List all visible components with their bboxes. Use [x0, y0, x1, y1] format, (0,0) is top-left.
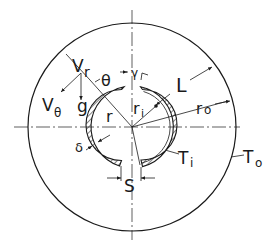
center-axes — [14, 10, 240, 240]
label-r-i: r — [133, 99, 140, 118]
label-v-r: V — [72, 56, 84, 76]
label-T-i-sub: i — [190, 156, 193, 170]
label-S: S — [124, 176, 135, 196]
label-T-o: T — [242, 147, 254, 167]
label-delta: δ — [75, 140, 83, 155]
label-v-theta: V — [42, 95, 54, 115]
inner-cylinder-left — [86, 87, 124, 166]
label-gamma: γ — [131, 66, 138, 80]
label-r-o: r — [196, 100, 203, 118]
label-T-i: T — [177, 148, 189, 168]
label-theta: θ — [101, 71, 111, 90]
label-T-o-sub: o — [255, 156, 262, 170]
label-L: L — [176, 74, 187, 96]
label-v-r-sub: r — [84, 64, 90, 80]
label-r: r — [106, 107, 113, 126]
gap-line-s — [132, 127, 140, 165]
label-v-theta-sub: θ — [54, 106, 61, 120]
label-r-o-sub: o — [204, 103, 211, 117]
annulus-diagram: V r V θ g θ γ r r i r o L δ S T i T o — [0, 0, 275, 246]
label-r-i-sub: i — [141, 107, 144, 120]
label-g: g — [77, 96, 88, 116]
